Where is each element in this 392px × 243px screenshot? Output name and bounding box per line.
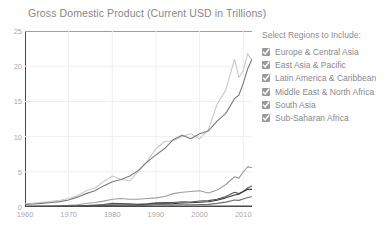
region-checkbox-list: Europe & Central AsiaEast Asia & Pacific… bbox=[262, 47, 388, 123]
x-tick-label: 1960 bbox=[17, 210, 34, 219]
checkbox-checked-icon[interactable] bbox=[262, 48, 270, 56]
x-tick-label: 1980 bbox=[104, 210, 121, 219]
region-checkbox-row[interactable]: Middle East & North Africa bbox=[262, 87, 388, 97]
region-label: East Asia & Pacific bbox=[275, 60, 346, 70]
region-label: Sub-Saharan Africa bbox=[275, 113, 349, 123]
x-tick-label: 1970 bbox=[60, 210, 77, 219]
region-label: South Asia bbox=[275, 100, 316, 110]
y-tick-label: 20 bbox=[14, 62, 22, 71]
gdp-chart-app: Gross Domestic Product (Current USD in T… bbox=[0, 0, 392, 243]
checkbox-checked-icon[interactable] bbox=[262, 74, 270, 82]
plot-area bbox=[25, 31, 252, 207]
checkbox-checked-icon[interactable] bbox=[262, 88, 270, 96]
chart-lines bbox=[25, 31, 252, 207]
region-checkbox-row[interactable]: Europe & Central Asia bbox=[262, 47, 388, 57]
region-checkbox-row[interactable]: Sub-Saharan Africa bbox=[262, 113, 388, 123]
series-line bbox=[25, 54, 252, 204]
x-tick-label: 2010 bbox=[235, 210, 252, 219]
region-checkbox-row[interactable]: East Asia & Pacific bbox=[262, 60, 388, 70]
chart-title: Gross Domestic Product (Current USD in T… bbox=[28, 7, 266, 19]
series-line bbox=[25, 189, 252, 206]
region-checkbox-row[interactable]: South Asia bbox=[262, 100, 388, 110]
y-tick-label: 25 bbox=[14, 27, 22, 36]
y-tick-label: 5 bbox=[18, 167, 22, 176]
region-selector-title: Select Regions to Include: bbox=[262, 30, 388, 40]
region-label: Europe & Central Asia bbox=[275, 47, 359, 57]
checkbox-checked-icon[interactable] bbox=[262, 101, 270, 109]
region-label: Middle East & North Africa bbox=[275, 87, 374, 97]
x-tick-label: 2000 bbox=[191, 210, 208, 219]
checkbox-checked-icon[interactable] bbox=[262, 61, 270, 69]
checkbox-checked-icon[interactable] bbox=[262, 114, 270, 122]
x-tick-label: 1990 bbox=[148, 210, 165, 219]
x-axis: 196019701980199020002010 bbox=[25, 210, 252, 224]
series-line bbox=[25, 59, 252, 204]
y-axis: 0510152025 bbox=[0, 31, 22, 207]
region-selector: Select Regions to Include: Europe & Cent… bbox=[262, 30, 388, 126]
region-checkbox-row[interactable]: Latin America & Caribbean bbox=[262, 73, 388, 83]
y-tick-label: 15 bbox=[14, 97, 22, 106]
region-label: Latin America & Caribbean bbox=[275, 73, 376, 83]
y-tick-label: 10 bbox=[14, 132, 22, 141]
